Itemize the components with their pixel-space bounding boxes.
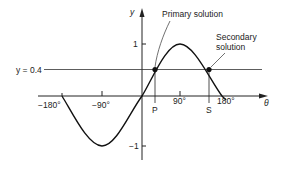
p-label: P [152,105,158,115]
y-axis-arrow-icon [140,8,145,17]
secondary-leader [211,53,225,67]
sine-curve [62,44,226,146]
tick-label-neg180: −180° [38,100,61,110]
s-label: S [206,105,212,115]
y-axis-label: y [129,7,135,17]
primary-solution-label: Primary solution [162,9,223,19]
reference-line-label: y = 0.4 [16,65,42,75]
x-axis-label: θ [264,98,269,108]
primary-solution-point [152,67,157,72]
tick-label-180: 180° [217,96,235,106]
tick-label-neg90: −90° [92,100,110,110]
tick-label-90: 90° [173,96,186,106]
tick-label-neg1: −1 [129,141,139,151]
sine-chart: y θ 1 −1 −180° −90° 90° 180° y = 0.4 Pri… [0,0,290,171]
secondary-solution-label-1: Secondary [216,32,257,42]
secondary-solution-label-2: solution [216,42,246,52]
tick-label-1: 1 [133,39,138,49]
secondary-solution-point [206,67,211,72]
